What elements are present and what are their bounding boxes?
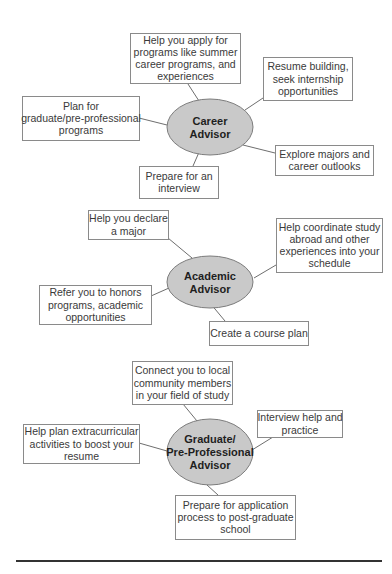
service-text-line: community members (134, 377, 231, 389)
service-text-line: in your field of study (136, 389, 230, 401)
connector-line (168, 238, 192, 258)
service-text-line: Create a course plan (210, 327, 308, 339)
service-text-line: a major (111, 225, 147, 237)
service-text-line: schedule (308, 257, 350, 269)
service-text-line: opportunities (65, 311, 125, 323)
service-text-line: Help you apply for (143, 34, 228, 46)
service-text-line: Refer you to honors (49, 286, 141, 298)
service-text-line: process to post-graduate (177, 511, 293, 523)
service-box: Help coordinate studyabroad and otherexp… (277, 219, 383, 273)
service-text-line: graduate/pre-professional (21, 112, 141, 124)
service-text-line: seek internship (273, 73, 344, 85)
service-box: Help plan extracurricularactivities to b… (24, 425, 140, 464)
graduate-advisor-map: Connect you to localcommunity membersin … (24, 362, 343, 540)
service-box: Prepare for applicationprocess to post-g… (176, 496, 296, 540)
service-text-line: abroad and other (290, 233, 370, 245)
graduate-advisor-hub: Graduate/Pre-ProfessionalAdvisor (166, 419, 253, 485)
service-text-line: Resume building, (267, 60, 348, 72)
advisor-mind-maps: Help you apply forprograms like summerca… (0, 0, 392, 574)
connector-line (139, 443, 167, 451)
service-text-line: Connect you to local (135, 364, 230, 376)
service-text-line: career programs, and (135, 58, 236, 70)
hub-label-line: Career (193, 115, 229, 127)
service-text-line: experiences into your (280, 245, 380, 257)
service-box: Connect you to localcommunity membersin … (133, 362, 233, 405)
connector-line (183, 404, 197, 421)
service-box: Prepare for aninterview (140, 167, 219, 199)
service-text-line: experiences (157, 70, 214, 82)
service-text-line: Prepare for an (145, 170, 212, 182)
hub-label-line: Graduate/ (184, 433, 235, 445)
hub-label-line: Advisor (190, 283, 232, 295)
service-text-line: Explore majors and (279, 148, 370, 160)
service-box: Resume building,seek internshipopportuni… (264, 58, 353, 101)
connector-line (207, 485, 218, 495)
service-text-line: career outlooks (289, 160, 361, 172)
service-box: Interview help andpractice (257, 411, 342, 438)
hub-label-line: Academic (184, 270, 236, 282)
hub-label-line: Advisor (190, 459, 232, 471)
service-text-line: programs like summer (134, 46, 238, 58)
connector-line (243, 145, 275, 153)
service-box: Create a course plan (210, 322, 309, 346)
connector-line (252, 437, 273, 450)
service-text-line: Plan for (63, 100, 100, 112)
service-text-line: Help plan extracurricular (25, 425, 139, 437)
connector-line (151, 288, 169, 296)
service-text-line: opportunities (278, 85, 338, 97)
hub-label-line: Advisor (190, 128, 232, 140)
service-text-line: programs (59, 124, 103, 136)
service-text-line: Prepare for application (183, 499, 289, 511)
connector-line (139, 118, 167, 125)
service-box: Plan forgraduate/pre-professionalprogram… (21, 97, 141, 141)
academic-advisor-hub: AcademicAdvisor (167, 256, 253, 308)
service-text-line: programs, academic (48, 299, 143, 311)
connector-line (188, 84, 199, 101)
service-text-line: school (220, 523, 250, 535)
service-box: Explore majors andcareer outlooks (276, 146, 374, 176)
service-text-line: Help coordinate study (279, 221, 381, 233)
service-text-line: Interview help and (257, 411, 342, 423)
service-box: Refer you to honorsprograms, academicopp… (40, 286, 152, 325)
connector-line (254, 265, 276, 278)
service-text-line: activities to boost your (30, 438, 134, 450)
career-advisor-hub: CareerAdvisor (167, 99, 253, 155)
service-box: Help you apply forprograms like summerca… (131, 34, 241, 84)
service-text-line: resume (64, 450, 99, 462)
career-advisor-map: Help you apply forprograms like summerca… (21, 34, 373, 199)
service-text-line: interview (158, 182, 200, 194)
service-text-line: Help you declare (89, 212, 168, 224)
service-text-line: practice (282, 424, 319, 436)
service-box: Help you declarea major (89, 211, 169, 240)
academic-advisor-map: Help you declarea majorHelp coordinate s… (40, 211, 383, 346)
connector-line (245, 98, 263, 110)
hub-label-line: Pre-Professional (166, 446, 253, 458)
